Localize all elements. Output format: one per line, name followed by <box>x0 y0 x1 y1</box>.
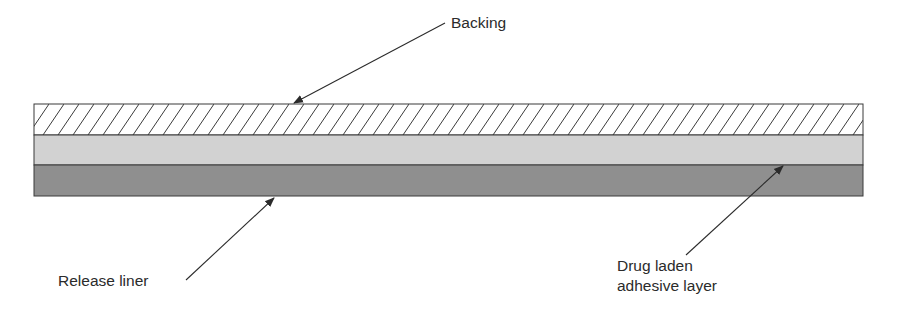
backing-layer <box>34 104 863 135</box>
drug-adhesive-label-line2: adhesive layer <box>617 276 717 296</box>
drug-adhesive-label: Drug laden adhesive layer <box>617 256 717 296</box>
backing-label: Backing <box>451 13 506 33</box>
drug-adhesive-label-line1: Drug laden <box>617 256 717 276</box>
adhesive-layer <box>34 135 863 165</box>
release-liner-label: Release liner <box>58 271 148 291</box>
release-liner-layer <box>34 165 863 196</box>
release-liner-arrow <box>186 198 274 280</box>
backing-arrow <box>294 23 445 103</box>
